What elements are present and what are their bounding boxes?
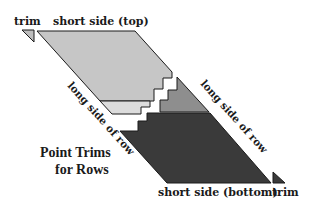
trim-triangle-bottom [273,172,285,183]
diagram-title-line2: for Rows [55,162,109,177]
label-short-side-top: short side (top) [53,15,149,28]
diagram-title-line1: Point Trims [40,145,111,160]
point-trims-diagram: trim short side (top) long side of row l… [0,0,315,206]
trim-triangle-top [22,30,34,42]
label-short-side-bottom: short side (bottom) [158,186,278,199]
light-band [100,101,150,114]
top-light-region [37,31,172,101]
label-trim-bottom: trim [272,186,299,199]
label-trim-top: trim [14,15,41,28]
